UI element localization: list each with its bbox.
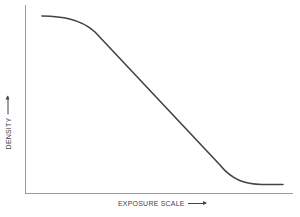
y-axis-label: DENSITY (1, 75, 15, 170)
y-axis-label-text: DENSITY (5, 117, 12, 149)
x-axis-label: EXPOSURE SCALE (118, 200, 206, 207)
arrow-right-icon (8, 96, 9, 114)
characteristic-curve (42, 16, 283, 185)
chart-canvas (0, 0, 300, 217)
arrow-right-icon (188, 203, 206, 204)
x-axis-label-text: EXPOSURE SCALE (118, 200, 185, 207)
